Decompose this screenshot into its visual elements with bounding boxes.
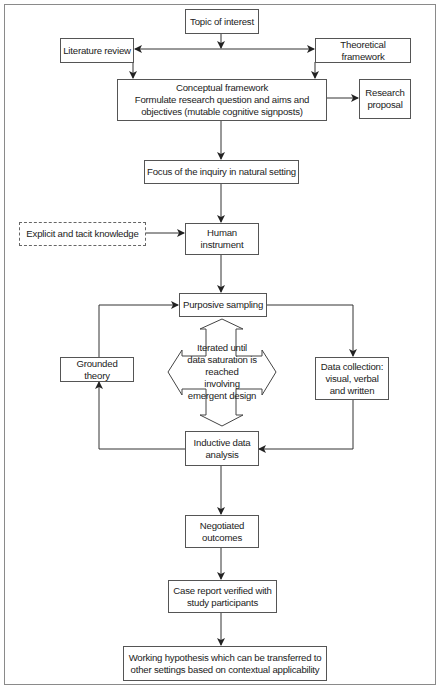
focus-of-inquiry-box: Focus of the inquiry in natural setting — [144, 160, 299, 184]
explicit-tacit-knowledge-box: Explicit and tacit knowledge — [19, 222, 146, 246]
purposive-sampling-box: Purposive sampling — [179, 293, 267, 317]
conceptual-framework-box: Conceptual framework Formulate research … — [117, 79, 327, 121]
data-collection-box: Data collection: visual, verbal and writ… — [315, 357, 389, 400]
working-hypothesis-box: Working hypothesis which can be transfer… — [123, 646, 327, 681]
inductive-data-analysis-box: Inductive data analysis — [185, 431, 259, 466]
iterated-until-saturation-text: Iterated until data saturation is reache… — [172, 342, 272, 402]
grounded-theory-box: Grounded theory — [60, 357, 134, 382]
negotiated-outcomes-box: Negotiated outcomes — [185, 515, 259, 548]
case-report-box: Case report verified with study particip… — [168, 580, 277, 613]
literature-review-box: Literature review — [60, 38, 134, 63]
topic-of-interest-box: Topic of interest — [185, 9, 259, 34]
research-proposal-box: Research proposal — [359, 79, 411, 119]
human-instrument-box: Human instrument — [185, 223, 259, 255]
theoretical-framework-box: Theoretical framework — [315, 38, 411, 63]
